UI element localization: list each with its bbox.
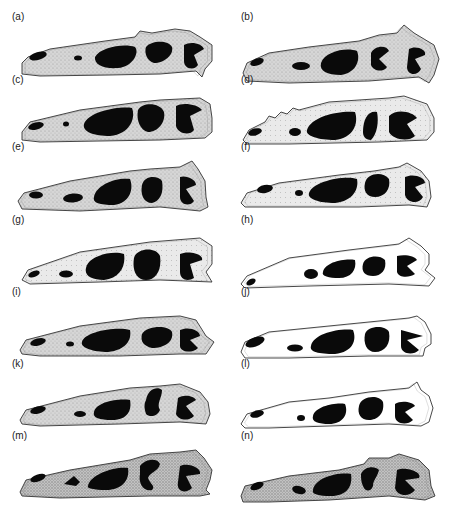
skull-drawing (229, 141, 458, 215)
fenestra (74, 411, 86, 417)
skull-panel: (h) (229, 214, 458, 288)
panel-label: (c) (12, 74, 24, 85)
skull-panel: (k) (0, 358, 229, 432)
skull-panel: (m) (0, 430, 229, 504)
skull-drawing (0, 430, 229, 504)
skull-drawing (0, 214, 229, 288)
skull-drawing (229, 74, 458, 148)
skull-panel: (d) (229, 74, 458, 148)
skull-drawing (0, 286, 229, 360)
panel-label: (n) (241, 430, 253, 441)
fenestra (287, 345, 303, 352)
skull-drawing (229, 358, 458, 432)
fenestra (74, 56, 82, 61)
fenestra (295, 190, 303, 196)
panel-label: (h) (241, 214, 253, 225)
panel-label: (k) (12, 358, 24, 369)
skull-panel: (f) (229, 141, 458, 215)
panel-label: (m) (12, 430, 27, 441)
panel-label: (i) (12, 286, 21, 297)
panel-label: (l) (241, 358, 250, 369)
skull-panel: (e) (0, 141, 229, 215)
fenestra (297, 415, 305, 421)
skull-panel: (c) (0, 74, 229, 148)
fenestra (292, 62, 310, 70)
skull-panel: (n) (229, 430, 458, 504)
panel-label: (g) (12, 214, 24, 225)
skull-panel: (i) (0, 286, 229, 360)
panel-label: (e) (12, 141, 24, 152)
skull-panel: (j) (229, 286, 458, 360)
panel-label: (b) (241, 11, 253, 22)
skull-drawing (229, 430, 458, 504)
fenestra (63, 122, 69, 127)
fenestra (304, 269, 318, 279)
skull-panel: (l) (229, 358, 458, 432)
skull-drawing (229, 214, 458, 288)
panel-label: (a) (12, 11, 24, 22)
panel-label: (f) (241, 141, 250, 152)
panel-label: (d) (241, 74, 253, 85)
fenestra (29, 192, 43, 199)
fenestra (289, 128, 301, 136)
skull-panel: (g) (0, 214, 229, 288)
skull-drawing (229, 286, 458, 360)
fenestra (66, 342, 74, 347)
skull-drawing (0, 141, 229, 215)
skull-drawing (0, 74, 229, 148)
panel-label: (j) (241, 286, 250, 297)
skull-drawing (0, 358, 229, 432)
fenestra (59, 271, 73, 278)
